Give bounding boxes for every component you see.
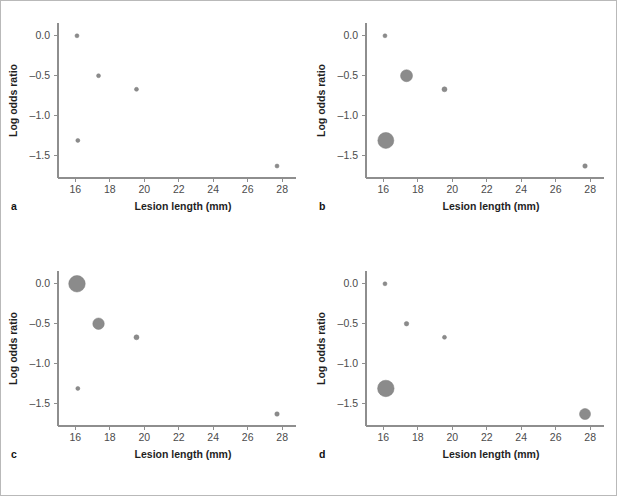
data-point xyxy=(378,380,395,397)
x-tick-label: 24 xyxy=(207,431,219,443)
data-point xyxy=(378,132,394,148)
scatter-plot-d: 0.0–0.5–1.0–1.516182022242628Lesion leng… xyxy=(309,249,617,496)
data-point xyxy=(442,87,447,92)
data-point xyxy=(401,70,413,82)
panel-b: 0.0–0.5–1.0–1.516182022242628Lesion leng… xyxy=(309,1,617,248)
y-tick-label: –1.5 xyxy=(338,397,359,409)
x-tick-label: 28 xyxy=(584,431,596,443)
data-point xyxy=(442,335,446,339)
y-tick-label: –0.5 xyxy=(30,317,51,329)
panel-letter-a: a xyxy=(11,200,17,212)
data-point xyxy=(404,321,409,326)
x-tick-label: 24 xyxy=(515,431,527,443)
x-tick-label: 16 xyxy=(69,183,81,195)
y-tick-label: 0.0 xyxy=(35,277,50,289)
scatter-plot-b: 0.0–0.5–1.0–1.516182022242628Lesion leng… xyxy=(309,1,617,248)
x-tick-label: 22 xyxy=(481,183,493,195)
data-point xyxy=(93,318,105,330)
x-axis-title: Lesion length (mm) xyxy=(443,200,540,212)
y-axis-title: Log odds ratio xyxy=(315,312,327,385)
x-tick-label: 16 xyxy=(377,183,389,195)
data-point xyxy=(97,74,101,78)
panel-c: 0.0–0.5–1.0–1.516182022242628Lesion leng… xyxy=(1,249,309,496)
x-axis-title: Lesion length (mm) xyxy=(443,448,540,460)
x-axis-title: Lesion length (mm) xyxy=(135,200,232,212)
x-tick-label: 18 xyxy=(412,431,424,443)
y-axis-title: Log odds ratio xyxy=(7,64,19,137)
x-tick-label: 16 xyxy=(377,431,389,443)
x-tick-label: 28 xyxy=(276,431,288,443)
x-axis-title: Lesion length (mm) xyxy=(135,448,232,460)
y-tick-label: 0.0 xyxy=(35,29,50,41)
x-tick-label: 18 xyxy=(104,431,116,443)
y-tick-label: –0.5 xyxy=(30,69,51,81)
data-point xyxy=(383,34,387,38)
x-tick-label: 18 xyxy=(104,183,116,195)
y-tick-label: –1.0 xyxy=(338,109,359,121)
x-tick-label: 22 xyxy=(173,431,185,443)
x-tick-label: 20 xyxy=(138,183,150,195)
y-tick-label: –1.5 xyxy=(30,149,51,161)
x-tick-label: 24 xyxy=(207,183,219,195)
x-tick-label: 16 xyxy=(69,431,81,443)
panel-letter-b: b xyxy=(319,200,325,212)
x-tick-label: 22 xyxy=(173,183,185,195)
data-point xyxy=(580,409,591,420)
y-tick-label: 0.0 xyxy=(343,277,358,289)
data-point xyxy=(275,164,279,168)
scatter-plot-c: 0.0–0.5–1.0–1.516182022242628Lesion leng… xyxy=(1,249,309,496)
panel-a: 0.0–0.5–1.0–1.516182022242628Lesion leng… xyxy=(1,1,309,248)
panel-d: 0.0–0.5–1.0–1.516182022242628Lesion leng… xyxy=(309,249,617,496)
data-point xyxy=(76,386,80,390)
figure-panel-grid: 0.0–0.5–1.0–1.516182022242628Lesion leng… xyxy=(0,0,617,496)
x-tick-label: 26 xyxy=(242,431,254,443)
y-tick-label: –1.0 xyxy=(30,109,51,121)
x-tick-label: 22 xyxy=(481,431,493,443)
data-point xyxy=(134,87,138,91)
y-tick-label: –0.5 xyxy=(338,317,359,329)
y-tick-label: –1.0 xyxy=(30,357,51,369)
data-point xyxy=(75,34,79,38)
data-point xyxy=(275,412,280,417)
x-tick-label: 26 xyxy=(242,183,254,195)
data-point xyxy=(134,335,139,340)
x-tick-label: 26 xyxy=(550,431,562,443)
x-tick-label: 26 xyxy=(550,183,562,195)
y-tick-label: –1.0 xyxy=(338,357,359,369)
y-tick-label: 0.0 xyxy=(343,29,358,41)
scatter-plot-a: 0.0–0.5–1.0–1.516182022242628Lesion leng… xyxy=(1,1,309,248)
x-tick-label: 28 xyxy=(276,183,288,195)
panel-letter-c: c xyxy=(11,448,17,460)
y-axis-title: Log odds ratio xyxy=(7,312,19,385)
x-tick-label: 28 xyxy=(584,183,596,195)
x-tick-label: 18 xyxy=(412,183,424,195)
x-tick-label: 20 xyxy=(138,431,150,443)
y-tick-label: –1.5 xyxy=(30,397,51,409)
data-point xyxy=(583,164,588,169)
data-point xyxy=(76,138,80,142)
x-tick-label: 20 xyxy=(446,431,458,443)
x-tick-label: 20 xyxy=(446,183,458,195)
panel-letter-d: d xyxy=(319,448,325,460)
data-point xyxy=(383,282,387,286)
y-axis-title: Log odds ratio xyxy=(315,64,327,137)
y-tick-label: –0.5 xyxy=(338,69,359,81)
x-tick-label: 24 xyxy=(515,183,527,195)
data-point xyxy=(69,276,86,293)
y-tick-label: –1.5 xyxy=(338,149,359,161)
